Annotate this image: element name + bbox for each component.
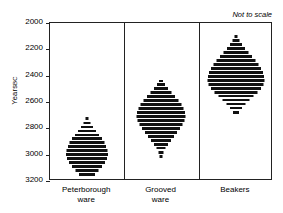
distribution-bar xyxy=(137,115,186,118)
distribution-bar xyxy=(232,39,239,42)
distribution-bar xyxy=(137,111,185,114)
distribution-bar xyxy=(148,135,174,138)
y-axis-tick-label: 2600 xyxy=(25,97,43,105)
distribution-bar xyxy=(226,103,245,106)
category-panel xyxy=(199,23,273,179)
not-to-scale-note: Not to scale xyxy=(232,10,272,19)
distribution-bar xyxy=(86,117,89,120)
y-axis-tick-label: 2400 xyxy=(25,71,43,79)
distribution-bar xyxy=(141,103,182,106)
plot-area xyxy=(49,22,272,180)
distribution-bar xyxy=(157,147,166,150)
distribution-bar xyxy=(154,87,168,90)
y-axis-tick-label: 3000 xyxy=(25,150,43,158)
distribution-bar xyxy=(209,71,263,74)
distribution-bar xyxy=(220,55,252,58)
distribution-bar xyxy=(223,51,248,54)
distribution-bar xyxy=(75,134,99,137)
category-panel xyxy=(124,23,198,179)
distribution-bar xyxy=(211,67,261,70)
distribution-bar xyxy=(213,63,258,66)
y-axis-tick-labels: 2000220024002600280030003200 xyxy=(0,0,47,213)
y-axis-tick-label: 3200 xyxy=(25,176,43,184)
distribution-bar xyxy=(69,161,105,164)
distribution-bar xyxy=(222,99,249,102)
distribution-bar xyxy=(211,87,261,90)
distribution-bar xyxy=(70,141,105,144)
x-axis-category-label: Beakers xyxy=(198,185,272,195)
distribution-bar xyxy=(157,83,165,86)
distribution-bar xyxy=(234,35,237,38)
distribution-bar xyxy=(78,130,96,133)
distribution-bar xyxy=(142,127,180,130)
x-axis-category-label: Peterborough ware xyxy=(49,185,123,204)
distribution-bar xyxy=(151,139,171,142)
distribution-bar xyxy=(230,107,242,110)
distribution-bar xyxy=(72,165,102,168)
distribution-bar xyxy=(159,80,163,83)
chart-figure: YearsBC 2000220024002600280030003200 Not… xyxy=(0,0,283,213)
distribution-bar xyxy=(230,43,242,46)
distribution-bar xyxy=(140,123,183,126)
distribution-bar xyxy=(208,75,264,78)
distribution-bar xyxy=(68,145,106,148)
distribution-bar xyxy=(160,155,163,158)
distribution-bar xyxy=(233,111,239,114)
y-axis-tick-mark xyxy=(46,181,50,182)
distribution-bar xyxy=(207,79,264,82)
x-axis-category-label: Grooved ware xyxy=(123,185,197,204)
distribution-bar xyxy=(138,119,185,122)
distribution-bar xyxy=(139,107,184,110)
distribution-bar xyxy=(214,91,257,94)
distribution-bar xyxy=(208,83,263,86)
distribution-bar xyxy=(227,47,245,50)
distribution-bar xyxy=(72,137,102,140)
distribution-bar xyxy=(151,91,172,94)
y-axis-tick-label: 2000 xyxy=(25,18,43,26)
distribution-bar xyxy=(67,149,108,152)
distribution-bar xyxy=(76,169,99,172)
y-axis-tick-label: 2800 xyxy=(25,123,43,131)
y-axis-tick-label: 2200 xyxy=(25,44,43,52)
distribution-bar xyxy=(154,143,168,146)
distribution-bar xyxy=(67,157,107,160)
distribution-bar xyxy=(145,131,177,134)
category-panel xyxy=(50,23,124,179)
distribution-bar xyxy=(79,173,95,176)
distribution-bar xyxy=(84,122,91,125)
distribution-bar xyxy=(66,153,108,156)
distribution-bar xyxy=(147,95,175,98)
distribution-bar xyxy=(216,59,255,62)
distribution-bar xyxy=(144,99,179,102)
distribution-bar xyxy=(81,126,93,129)
distribution-bar xyxy=(218,95,253,98)
distribution-bar xyxy=(159,151,164,154)
